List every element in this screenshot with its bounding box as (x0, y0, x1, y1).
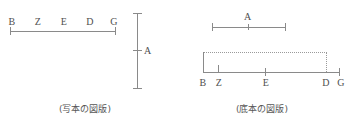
panel-basetext-figure: A B Z E D G (底本の図版) (180, 0, 360, 124)
basetext-vertical-d-dotted (326, 52, 327, 72)
basetext-upper-endtick-left (212, 23, 213, 31)
basetext-tick-e (265, 68, 266, 76)
manuscript-vertical-endtick-bottom (133, 88, 142, 89)
manuscript-endtick-b (10, 27, 11, 35)
basetext-caption: (底本の図版) (236, 103, 288, 115)
manuscript-label-a: A (144, 45, 151, 56)
basetext-upper-midtick (248, 24, 249, 30)
basetext-label-d: D (322, 77, 329, 88)
manuscript-label-e: E (61, 16, 67, 27)
basetext-label-a: A (244, 11, 251, 22)
manuscript-label-d: D (86, 16, 93, 27)
manuscript-label-z: Z (35, 16, 41, 27)
basetext-tick-z (218, 65, 219, 73)
manuscript-baseline (10, 31, 116, 32)
basetext-vertical-b (203, 52, 204, 72)
basetext-tick-g (339, 68, 340, 76)
manuscript-label-b: B (9, 16, 16, 27)
manuscript-label-g: G (110, 16, 117, 27)
manuscript-vertical-endtick-top (133, 13, 142, 14)
basetext-label-b: B (200, 77, 207, 88)
basetext-label-z: Z (216, 77, 222, 88)
basetext-label-e: E (263, 77, 269, 88)
basetext-upper-endtick-right (285, 23, 286, 31)
manuscript-vertical-midtick (133, 50, 142, 51)
figure-pair: B Z E D G A (写本の図版) A B Z (0, 0, 360, 124)
manuscript-endtick-g (115, 27, 116, 35)
basetext-dotted-top (203, 52, 327, 53)
manuscript-caption: (写本の図版) (59, 103, 111, 115)
basetext-label-g: G (337, 77, 344, 88)
basetext-baseline (203, 72, 340, 73)
panel-manuscript-figure: B Z E D G A (写本の図版) (0, 0, 180, 124)
